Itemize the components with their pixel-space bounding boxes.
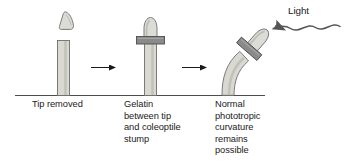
panel-caption-curvature: Normal phototropic curvature remains pos…	[215, 99, 305, 157]
severed-tip	[59, 12, 73, 30]
panel-caption-tip-removed: Tip removed	[32, 99, 132, 111]
coleoptile-stump-2	[145, 40, 157, 96]
panel-caption-gelatin: Gelatin between tip and coleoptile stump	[124, 99, 210, 145]
panel-gelatin	[137, 18, 165, 96]
gelatin-block-2	[137, 37, 165, 45]
curved-coleoptile	[222, 51, 249, 95]
phototropism-diagram: Light Tip removed Gelatin between tip an…	[0, 0, 350, 167]
panel-curvature	[222, 26, 272, 95]
panel-tip-removed	[58, 12, 74, 96]
light-label: Light	[288, 5, 309, 16]
light-wave	[276, 25, 340, 30]
coleoptile-stump-1	[58, 41, 70, 96]
light-ray-icon	[276, 25, 340, 30]
